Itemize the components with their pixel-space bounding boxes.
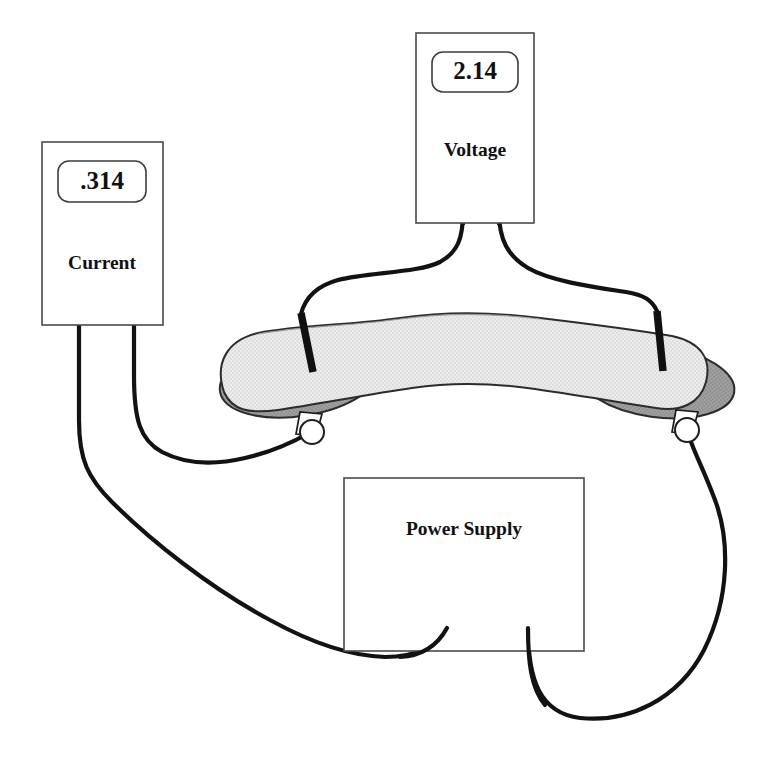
voltmeter-label: Voltage [444,139,506,160]
curved-bar-specimen [221,313,708,411]
power-supply-body [344,478,584,651]
binding-post-right [672,410,699,442]
voltmeter[interactable]: 2.14 Voltage [416,33,534,223]
voltmeter-reading: 2.14 [453,57,497,84]
power-supply-label: Power Supply [406,518,522,539]
wire-voltmeter-left-to-probe [301,212,463,314]
power-supply[interactable]: Power Supply [344,478,584,651]
wire-voltmeter-right-to-probe [499,212,657,311]
ammeter-reading: .314 [80,167,124,194]
ammeter-label: Current [68,252,136,273]
apparatus-diagram: 2.14 Voltage .314 Current Power Supply [0,0,758,757]
ammeter[interactable]: .314 Current [42,142,163,325]
diagram-canvas: 2.14 Voltage .314 Current Power Supply [0,0,758,757]
